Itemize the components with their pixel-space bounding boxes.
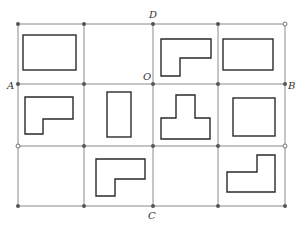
grid-diagram: D A O B C	[0, 0, 300, 231]
shape-r2c1-l-shape	[25, 97, 73, 134]
grid-vertices	[16, 22, 287, 208]
shape-r3c2-l-shape	[96, 159, 145, 196]
shape-r1c1-rectangle	[23, 35, 76, 70]
label-d: D	[148, 9, 157, 20]
label-o: O	[143, 71, 151, 82]
shape-r1c4-rectangle	[223, 39, 273, 70]
shape-r3c4-l-shape	[227, 155, 275, 192]
label-b: B	[287, 80, 295, 91]
shape-r2c2-tall-rectangle	[107, 92, 131, 137]
label-a: A	[6, 80, 14, 91]
label-c: C	[148, 210, 156, 221]
shape-r1c3-l-shape	[161, 39, 211, 76]
grid-lines	[18, 24, 285, 206]
shape-r2c4-square	[233, 98, 275, 136]
shape-r2c3-t-shape	[161, 95, 210, 139]
